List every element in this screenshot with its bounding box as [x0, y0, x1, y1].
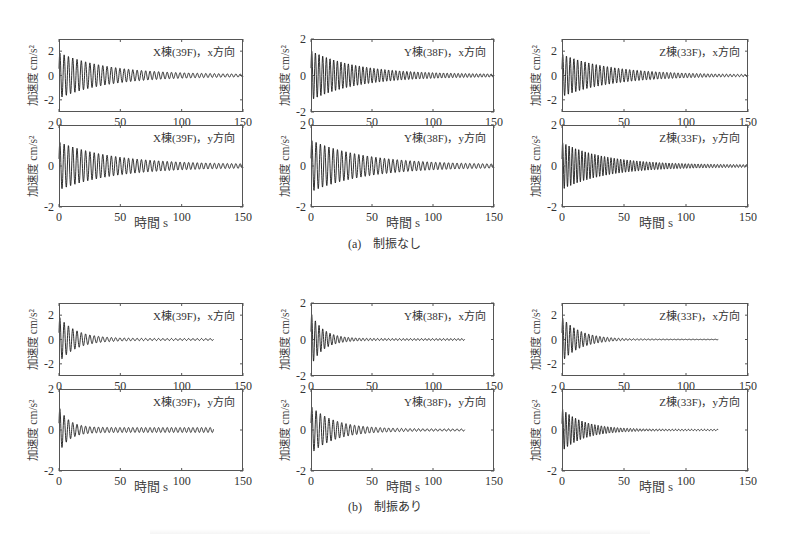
y-tick-label: 0 — [551, 69, 557, 83]
y-tick-label: -2 — [296, 369, 306, 383]
x-tick-label: 100 — [173, 210, 191, 224]
x-axis-label: 時間 s — [639, 476, 673, 495]
line-plot: 050100150-202Z棟(33F)，x方向加速度 cm/s² — [562, 39, 748, 112]
panel-title: X棟(39F)，x方向 — [153, 45, 235, 59]
x-tick-label: 150 — [739, 474, 757, 488]
y-axis-label: 加速度 cm/s² — [278, 308, 291, 370]
x-tick-label: 150 — [234, 474, 252, 488]
y-tick-label: 0 — [48, 159, 54, 173]
acceleration-trace — [59, 142, 243, 188]
x-tick-label: 100 — [677, 474, 695, 488]
plot-panel: 050100150-202Z棟(33F)，y方向加速度 cm/s² — [562, 389, 748, 471]
y-axis-label: 加速度 cm/s² — [26, 135, 39, 197]
line-plot: 050100150-202X棟(39F)，y方向加速度 cm/s² — [59, 389, 243, 471]
y-tick-label: 2 — [300, 382, 306, 396]
x-axis-label: 時間 s — [386, 476, 420, 495]
y-tick-label: 2 — [48, 44, 54, 58]
line-plot: 050100150-202Z棟(33F)，y方向加速度 cm/s² — [562, 125, 748, 207]
y-tick-label: -2 — [547, 93, 557, 107]
x-tick-label: 50 — [366, 474, 378, 488]
y-tick-label: 0 — [300, 423, 306, 437]
acceleration-trace — [59, 53, 243, 97]
y-tick-label: 2 — [551, 118, 557, 132]
y-tick-label: -2 — [44, 93, 54, 107]
x-tick-label: 100 — [424, 210, 442, 224]
cut-off-figure-caption — [150, 529, 650, 534]
y-tick-label: 2 — [551, 382, 557, 396]
x-tick-label: 50 — [366, 210, 378, 224]
plot-panel: 050100150-202X棟(39F)，x方向加速度 cm/s² — [59, 39, 243, 112]
x-axis-label: 時間 s — [639, 212, 673, 231]
y-tick-label: -2 — [44, 200, 54, 214]
plot-panel: 050100150-202Z棟(33F)，x方向加速度 cm/s² — [562, 303, 748, 376]
line-plot: 050100150-202Y棟(38F)，y方向加速度 cm/s² — [311, 389, 494, 471]
plot-panel: 050100150-202X棟(39F)，y方向加速度 cm/s² — [59, 125, 243, 207]
x-tick-label: 150 — [485, 474, 503, 488]
plot-panel: 050100150-202X棟(39F)，x方向加速度 cm/s² — [59, 303, 243, 376]
y-tick-label: 0 — [300, 69, 306, 83]
y-axis-label: 加速度 cm/s² — [26, 308, 39, 370]
y-tick-label: 2 — [48, 308, 54, 322]
panel-title: Y棟(38F)，x方向 — [404, 309, 486, 323]
y-tick-label: 0 — [551, 423, 557, 437]
x-tick-label: 100 — [677, 210, 695, 224]
plot-panel: 050100150-202Y棟(38F)，x方向加速度 cm/s² — [311, 39, 494, 112]
line-plot: 050100150-202Z棟(33F)，y方向加速度 cm/s² — [562, 389, 748, 471]
y-axis-label: 加速度 cm/s² — [26, 44, 39, 106]
y-tick-label: 0 — [48, 333, 54, 347]
y-tick-label: 0 — [551, 333, 557, 347]
x-tick-label: 50 — [114, 474, 126, 488]
panel-title: Y棟(38F)，y方向 — [404, 131, 486, 145]
acceleration-trace — [562, 410, 718, 450]
y-tick-label: 2 — [48, 382, 54, 396]
plot-panel: 050100150-202Y棟(38F)，y方向加速度 cm/s² — [311, 389, 494, 471]
y-axis-label: 加速度 cm/s² — [529, 399, 542, 461]
plot-panel: 050100150-202Y棟(38F)，y方向加速度 cm/s² — [311, 125, 494, 207]
x-tick-label: 0 — [308, 210, 314, 224]
line-plot: 050100150-202X棟(39F)，x方向加速度 cm/s² — [59, 303, 243, 376]
y-tick-label: -2 — [547, 200, 557, 214]
y-axis-label: 加速度 cm/s² — [529, 44, 542, 106]
y-tick-label: -2 — [547, 464, 557, 478]
panel-title: X棟(39F)，y方向 — [153, 131, 235, 145]
panel-title: X棟(39F)，x方向 — [153, 309, 235, 323]
x-tick-label: 0 — [559, 474, 565, 488]
y-tick-label: 0 — [300, 159, 306, 173]
panel-title: Y棟(38F)，x方向 — [404, 45, 486, 59]
y-tick-label: -2 — [296, 464, 306, 478]
x-tick-label: 100 — [424, 474, 442, 488]
plot-panel: 050100150-202X棟(39F)，y方向加速度 cm/s² — [59, 389, 243, 471]
acceleration-trace — [59, 318, 214, 359]
x-tick-label: 150 — [739, 210, 757, 224]
line-plot: 050100150-202X棟(39F)，y方向加速度 cm/s² — [59, 125, 243, 207]
group-caption-a: (a) 制振なし — [348, 234, 421, 252]
acceleration-trace — [311, 141, 494, 191]
y-axis-label: 加速度 cm/s² — [278, 44, 291, 106]
y-tick-label: -2 — [44, 357, 54, 371]
x-tick-label: 0 — [559, 210, 565, 224]
line-plot: 050100150-202X棟(39F)，x方向加速度 cm/s² — [59, 39, 243, 112]
y-tick-label: 2 — [48, 118, 54, 132]
x-tick-label: 50 — [114, 210, 126, 224]
acceleration-trace — [59, 409, 214, 448]
plot-panel: 050100150-202Y棟(38F)，x方向加速度 cm/s² — [311, 303, 494, 376]
panel-title: Z棟(33F)，x方向 — [659, 45, 740, 59]
y-tick-label: 0 — [551, 159, 557, 173]
x-tick-label: 50 — [618, 210, 630, 224]
acceleration-trace — [311, 51, 494, 99]
x-axis-label: 時間 s — [134, 476, 168, 495]
x-axis-label: 時間 s — [386, 212, 420, 231]
x-tick-label: 50 — [618, 474, 630, 488]
y-tick-label: -2 — [296, 200, 306, 214]
x-tick-label: 150 — [485, 210, 503, 224]
y-axis-label: 加速度 cm/s² — [278, 399, 291, 461]
line-plot: 050100150-202Y棟(38F)，x方向加速度 cm/s² — [311, 39, 494, 112]
y-tick-label: 2 — [300, 118, 306, 132]
y-tick-label: 0 — [48, 423, 54, 437]
x-tick-label: 0 — [308, 474, 314, 488]
y-axis-label: 加速度 cm/s² — [26, 399, 39, 461]
acceleration-trace — [562, 143, 748, 189]
line-plot: 050100150-202Y棟(38F)，x方向加速度 cm/s² — [311, 303, 494, 376]
panel-title: Y棟(38F)，y方向 — [404, 395, 486, 409]
acceleration-trace — [562, 318, 718, 359]
